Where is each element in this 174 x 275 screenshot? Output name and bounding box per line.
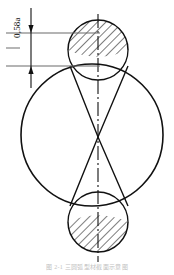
main-circle <box>21 64 163 206</box>
technical-drawing-figure: 0,58a 图 2-1 三圆弧型材截面示意图 <box>0 0 174 275</box>
bowtie-triangles <box>70 66 128 206</box>
upper-triangle <box>70 66 128 137</box>
lower-triangle <box>70 137 128 206</box>
drawing-canvas <box>0 0 174 275</box>
dimension-arrow-bottom <box>28 66 33 74</box>
dimension-label: 0,58a <box>10 4 24 38</box>
dimension-label-text: 0,58a <box>10 4 24 38</box>
dimension-arrow-top <box>28 25 33 33</box>
figure-caption: 图 2-1 三圆弧型材截面示意图 <box>0 262 174 271</box>
